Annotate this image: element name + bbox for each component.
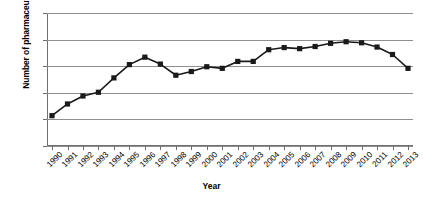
data-series xyxy=(47,13,413,146)
x-tick-mark-2000 xyxy=(207,146,208,150)
data-point-2002 xyxy=(235,59,240,64)
y-axis-title: Number of pharmaceutical firms xyxy=(21,0,31,95)
data-point-1992 xyxy=(80,93,85,98)
data-point-2012 xyxy=(390,52,395,57)
x-tick-mark-1991 xyxy=(68,146,69,150)
data-point-1993 xyxy=(96,90,101,95)
data-point-2003 xyxy=(251,59,256,64)
x-tick-mark-2007 xyxy=(315,146,316,150)
x-tick-mark-1997 xyxy=(160,146,161,150)
series-line xyxy=(52,42,408,116)
x-tick-mark-2011 xyxy=(377,146,378,150)
x-tick-mark-2008 xyxy=(331,146,332,150)
x-tick-mark-1995 xyxy=(129,146,130,150)
x-tick-mark-2010 xyxy=(362,146,363,150)
x-tick-mark-2009 xyxy=(346,146,347,150)
x-tick-mark-2012 xyxy=(393,146,394,150)
data-point-2011 xyxy=(374,44,379,49)
data-point-1990 xyxy=(49,113,54,118)
data-point-2010 xyxy=(359,40,364,45)
data-point-2007 xyxy=(313,44,318,49)
data-point-2008 xyxy=(328,41,333,46)
x-tick-mark-2013 xyxy=(408,146,409,150)
x-tick-mark-2001 xyxy=(222,146,223,150)
data-point-1991 xyxy=(65,101,70,106)
data-point-2009 xyxy=(343,39,348,44)
data-point-2013 xyxy=(405,66,410,71)
x-tick-mark-1990 xyxy=(52,146,53,150)
y-tick-mark-0 xyxy=(43,146,47,147)
data-point-1997 xyxy=(158,61,163,66)
x-tick-mark-1992 xyxy=(83,146,84,150)
data-point-1996 xyxy=(142,55,147,60)
data-point-2001 xyxy=(220,66,225,71)
x-tick-mark-2005 xyxy=(284,146,285,150)
data-point-1998 xyxy=(173,73,178,78)
x-tick-mark-1998 xyxy=(176,146,177,150)
data-point-1995 xyxy=(127,62,132,67)
x-tick-mark-2006 xyxy=(300,146,301,150)
x-tick-mark-2004 xyxy=(269,146,270,150)
data-point-1994 xyxy=(111,75,116,80)
x-tick-mark-1999 xyxy=(191,146,192,150)
x-tick-mark-1994 xyxy=(114,146,115,150)
x-tick-mark-2003 xyxy=(253,146,254,150)
data-point-1999 xyxy=(189,69,194,74)
data-point-2004 xyxy=(266,47,271,52)
x-axis-title: Year xyxy=(0,181,423,191)
x-tick-mark-1993 xyxy=(98,146,99,150)
x-tick-mark-1996 xyxy=(145,146,146,150)
data-point-2005 xyxy=(282,45,287,50)
x-tick-mark-2002 xyxy=(238,146,239,150)
chart-container: Number of pharmaceutical firms 050100150… xyxy=(0,0,423,198)
data-point-2006 xyxy=(297,46,302,51)
data-point-2000 xyxy=(204,64,209,69)
gridline-0 xyxy=(47,146,413,147)
plot-area: 050100150200250 199019911992199319941995… xyxy=(47,13,413,146)
